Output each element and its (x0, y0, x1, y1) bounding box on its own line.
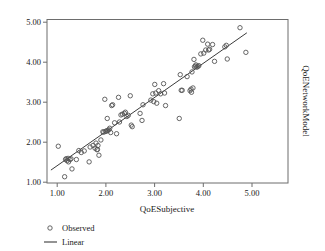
legend-label-linear: Linear (62, 237, 84, 247)
chart-canvas: 5.00 4.00 3.00 2.00 1.00 1.00 2.00 3.00 … (0, 0, 325, 251)
data-point (192, 57, 196, 61)
data-point (151, 92, 155, 96)
data-point (87, 160, 91, 164)
data-point (161, 81, 165, 85)
y-tick-label: 4.00 (26, 57, 41, 67)
chart-legend: Observed Linear (44, 223, 95, 247)
legend-observed-marker-icon (48, 226, 52, 230)
data-point (103, 97, 107, 101)
x-tick-label: 3.00 (147, 188, 162, 198)
y-axis-title: QoENetworkModel (301, 65, 311, 137)
data-point (177, 116, 181, 120)
data-point (116, 95, 120, 99)
data-point (205, 42, 209, 46)
data-point (105, 116, 109, 120)
y-tick-label: 1.00 (26, 177, 41, 187)
scatter-chart-figure: 5.00 4.00 3.00 2.00 1.00 1.00 2.00 3.00 … (0, 0, 325, 251)
x-axis-ticks (57, 183, 252, 187)
data-point (56, 144, 60, 148)
data-point (62, 175, 66, 179)
data-point (199, 52, 203, 56)
y-tick-label: 3.00 (26, 97, 41, 107)
data-point (114, 132, 118, 136)
data-point (210, 42, 214, 46)
y-tick-label: 5.00 (26, 17, 41, 27)
observed-points-layer (56, 26, 248, 179)
plot-frame (47, 20, 288, 184)
data-point (99, 138, 103, 142)
x-tick-label: 1.00 (50, 188, 65, 198)
x-tick-label: 5.00 (245, 188, 260, 198)
x-axis-title: QoESubjective (140, 204, 195, 214)
y-tick-label: 2.00 (26, 137, 41, 147)
data-point (128, 94, 132, 98)
data-point (178, 72, 182, 76)
data-point (163, 103, 167, 107)
data-point (153, 82, 157, 86)
data-point (238, 26, 242, 30)
x-tick-label: 2.00 (98, 188, 113, 198)
data-point (112, 121, 116, 125)
y-axis-ticks (43, 22, 47, 182)
data-point (97, 153, 101, 157)
data-point (201, 38, 205, 42)
data-point (212, 59, 216, 63)
data-point (225, 57, 229, 61)
data-point (244, 50, 248, 54)
data-point (70, 167, 74, 171)
x-tick-label: 4.00 (196, 188, 211, 198)
x-axis-tick-labels: 1.00 2.00 3.00 4.00 5.00 (50, 188, 260, 198)
data-point (154, 91, 158, 95)
y-axis-tick-labels: 5.00 4.00 3.00 2.00 1.00 (26, 17, 41, 187)
data-point (74, 157, 78, 161)
legend-label-observed: Observed (62, 223, 95, 233)
data-point (140, 118, 144, 122)
data-point (138, 111, 142, 115)
